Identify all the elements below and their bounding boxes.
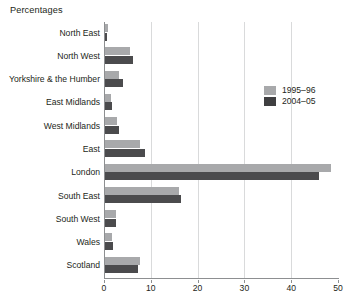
bar [104,71,119,79]
x-tick-label: 0 [102,283,107,293]
category-label: East Midlands [0,97,100,107]
bar [104,149,145,157]
x-tick-label: 10 [146,283,156,293]
category-label: East [0,144,100,154]
category-label: Wales [0,237,100,247]
x-tick-label: 30 [240,283,250,293]
bar [104,79,123,87]
plot-area [104,22,338,278]
bar [104,117,117,125]
category-label: Yorkshire & the Humber [0,74,100,84]
legend-label: 2004–05 [282,96,315,106]
bar [104,126,119,134]
bar [104,94,111,102]
category-label: South East [0,191,100,201]
bar-group [104,231,338,254]
legend-item[interactable]: 2004–05 [264,96,315,106]
legend-item[interactable]: 1995–96 [264,85,315,95]
x-axis-tick-labels: 01020304050 [104,280,339,296]
category-label: Scotland [0,260,100,270]
bar-group [104,45,338,68]
category-label: North East [0,28,100,38]
legend: 1995–962004–05 [264,85,315,107]
bar [104,219,116,227]
bar-group [104,115,338,138]
bar [104,233,112,241]
category-label: West Midlands [0,121,100,131]
bar [104,102,112,110]
bar [104,140,140,148]
bar [104,265,138,273]
bar [104,56,133,64]
bar-chart: Percentages North EastNorth WestYorkshir… [0,0,353,300]
bar [104,195,181,203]
bar-group [104,138,338,161]
bar-group [104,255,338,278]
bar [104,172,319,180]
y-axis-line [104,22,105,278]
chart-title: Percentages [10,5,63,15]
category-label: South West [0,214,100,224]
bar [104,164,331,172]
category-axis-labels: North EastNorth WestYorkshire & the Humb… [0,22,100,278]
x-axis-line [104,278,339,279]
bar [104,187,179,195]
bar-group [104,208,338,231]
bar [104,47,130,55]
legend-swatch [264,97,276,106]
legend-label: 1995–96 [282,85,315,95]
bar [104,242,113,250]
category-label: North West [0,51,100,61]
legend-swatch [264,86,276,95]
bar [104,210,116,218]
x-tick-label: 50 [333,283,343,293]
bar [104,257,140,265]
bar-group [104,162,338,185]
bar-group [104,22,338,45]
x-tick-label: 20 [193,283,203,293]
bar-rows [104,22,338,278]
bar-group [104,185,338,208]
x-tick-label: 40 [286,283,296,293]
category-label: London [0,167,100,177]
